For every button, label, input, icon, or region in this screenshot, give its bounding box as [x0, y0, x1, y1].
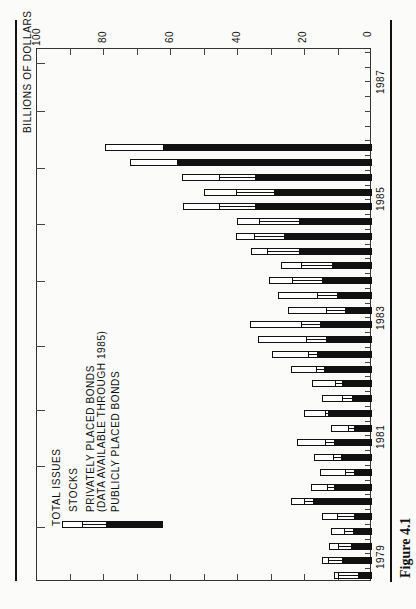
segment-public	[328, 410, 372, 417]
quarter-tick	[365, 67, 371, 68]
segment-private	[337, 513, 355, 520]
quarter-tick	[365, 126, 371, 127]
segment-public	[354, 469, 372, 476]
segment-private	[333, 454, 342, 461]
segment-public	[163, 144, 372, 151]
segment-stocks	[288, 307, 327, 314]
quarter-tick	[365, 111, 371, 112]
quarter-tick	[365, 258, 371, 259]
segment-public	[342, 557, 372, 564]
year-tick	[36, 63, 45, 64]
segment-public	[317, 351, 372, 358]
segment-public	[351, 543, 372, 550]
quarter-tick	[365, 214, 371, 215]
segment-stocks	[105, 144, 164, 151]
segment-private	[335, 380, 343, 387]
axis-title: BILLIONS OF DOLLARS	[22, 10, 33, 133]
segment-private	[338, 543, 352, 550]
segment-private	[326, 307, 346, 314]
segment-stocks	[236, 233, 255, 240]
quarter-tick	[365, 81, 371, 82]
segment-public	[255, 203, 372, 210]
quarter-tick	[365, 450, 371, 451]
quarter-tick	[365, 435, 371, 436]
value-tick-top	[338, 48, 339, 55]
value-tick-top	[103, 48, 104, 55]
quarter-tick	[365, 421, 371, 422]
segment-private	[308, 351, 318, 358]
quarter-tick	[365, 376, 371, 377]
year-label-1985: 1985	[375, 187, 386, 211]
segment-stocks	[272, 351, 309, 358]
quarter-tick	[365, 539, 371, 540]
quarter-tick	[365, 406, 371, 407]
segment-stocks	[312, 380, 336, 387]
tick-label-80: 80	[97, 31, 108, 43]
bar-1986Q1	[36, 159, 371, 166]
segment-public	[255, 174, 372, 181]
bar-1979Q2	[36, 557, 371, 564]
legend-private-line1: PRIVATELY PLACED BONDS	[85, 365, 96, 512]
quarter-tick	[365, 524, 371, 525]
year-tick	[36, 168, 45, 169]
quarter-tick	[365, 155, 371, 156]
segment-public	[334, 439, 372, 446]
quarter-tick	[365, 509, 371, 510]
segment-private	[304, 498, 314, 505]
segment-public	[320, 321, 372, 328]
legend-stocks: STOCKS	[68, 467, 79, 512]
bar-1979Q1	[36, 572, 371, 579]
segment-private	[267, 248, 299, 255]
bar-1984Q1	[36, 277, 371, 284]
segment-public	[313, 498, 372, 505]
year-tick	[36, 466, 45, 467]
bar-1984Q4	[36, 233, 371, 240]
quarter-tick	[365, 362, 371, 363]
segment-stocks	[237, 218, 260, 225]
quarter-tick	[365, 391, 371, 392]
tick-label-60: 60	[164, 31, 175, 43]
quarter-tick	[365, 140, 371, 141]
segment-private	[301, 321, 321, 328]
segment-stocks	[204, 189, 237, 196]
segment-stocks	[331, 528, 345, 535]
bar-1983Q4	[36, 292, 371, 299]
segment-public	[299, 218, 372, 225]
quarter-tick	[365, 288, 371, 289]
year-tick	[36, 346, 45, 347]
legend-swatch-private	[82, 521, 107, 528]
segment-stocks	[251, 248, 268, 255]
quarter-tick	[365, 199, 371, 200]
value-tick-top	[304, 48, 305, 55]
segment-private	[292, 277, 323, 284]
segment-public	[337, 292, 372, 299]
value-tick-top	[170, 48, 171, 55]
segment-public	[177, 159, 372, 166]
segment-private	[317, 292, 338, 299]
bar-1985Q3	[36, 189, 371, 196]
bar-1980Q1	[36, 513, 371, 520]
bar-1986Q2	[36, 144, 371, 151]
value-tick-top	[237, 48, 238, 55]
segment-public	[326, 336, 372, 343]
segment-stocks	[320, 469, 346, 476]
segment-stocks	[329, 543, 339, 550]
value-tick-top	[271, 48, 272, 55]
segment-stocks	[278, 292, 318, 299]
quarter-tick	[365, 185, 371, 186]
legend-private-line2: (DATA AVAILABLE THROUGH 1985)	[96, 330, 107, 512]
segment-stocks	[322, 557, 329, 564]
bar-1984Q2	[36, 262, 371, 269]
segment-public	[322, 277, 372, 284]
right-frame-rule	[390, 20, 392, 582]
legend-sample-bar	[62, 521, 163, 528]
quarter-tick	[365, 96, 371, 97]
quarter-tick	[365, 494, 371, 495]
segment-public	[274, 189, 372, 196]
segment-private	[345, 469, 355, 476]
legend-swatch-stocks	[62, 521, 83, 528]
segment-stocks	[250, 321, 301, 328]
quarter-tick	[365, 303, 371, 304]
segment-stocks	[258, 336, 306, 343]
segment-private	[327, 484, 335, 491]
